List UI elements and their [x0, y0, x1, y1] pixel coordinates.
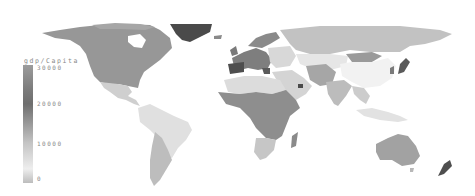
- region-australia[interactable]: [376, 134, 420, 166]
- region-southeast-asia[interactable]: [352, 86, 370, 104]
- world-choropleth-map: [0, 0, 475, 196]
- region-eastern-europe[interactable]: [268, 46, 296, 68]
- region-greece-turkey[interactable]: [262, 68, 270, 74]
- region-southern-africa[interactable]: [254, 138, 276, 160]
- region-canadian-arctic[interactable]: [92, 23, 155, 30]
- region-indonesia[interactable]: [356, 108, 408, 122]
- region-new-zealand[interactable]: [438, 160, 452, 176]
- region-russia[interactable]: [280, 26, 452, 54]
- region-greenland[interactable]: [170, 24, 212, 42]
- region-iberia[interactable]: [228, 62, 244, 74]
- region-iceland[interactable]: [214, 35, 222, 39]
- region-scandinavia[interactable]: [248, 32, 280, 48]
- region-uk[interactable]: [230, 46, 238, 56]
- region-mongolia[interactable]: [346, 52, 382, 62]
- region-north-america[interactable]: [42, 24, 172, 88]
- region-india[interactable]: [326, 80, 352, 106]
- region-madagascar[interactable]: [291, 132, 298, 148]
- region-japan[interactable]: [398, 58, 410, 74]
- region-gulf-states[interactable]: [298, 84, 303, 88]
- region-tasmania[interactable]: [410, 168, 414, 172]
- region-sub-saharan-africa[interactable]: [218, 90, 300, 140]
